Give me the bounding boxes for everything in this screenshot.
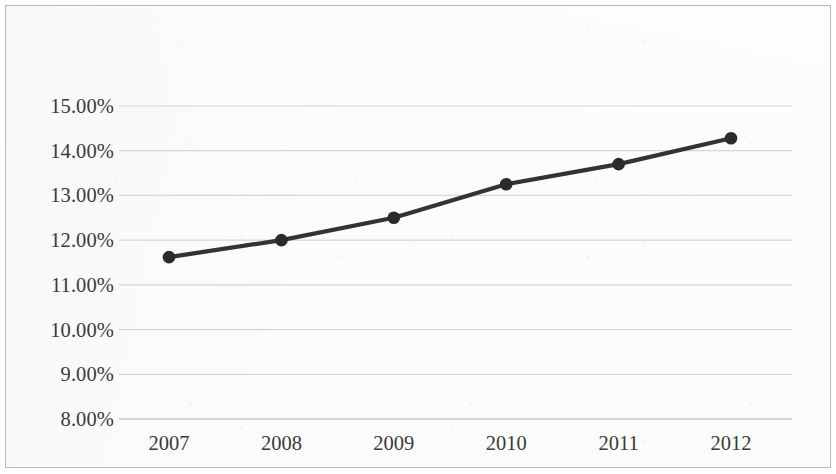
x-tick-label: 2011 [559, 432, 679, 455]
x-tick-label: 2008 [221, 432, 341, 455]
x-tick-label: 2009 [334, 432, 454, 455]
x-tick-label: 2010 [446, 432, 566, 455]
x-axis-tick-labels: 200720082009201020112012 [6, 6, 830, 467]
x-tick-label: 2007 [109, 432, 229, 455]
chart-frame: 15.00%14.00%13.00%12.00%11.00%10.00%9.00… [5, 5, 831, 468]
x-tick-label: 2012 [671, 432, 791, 455]
